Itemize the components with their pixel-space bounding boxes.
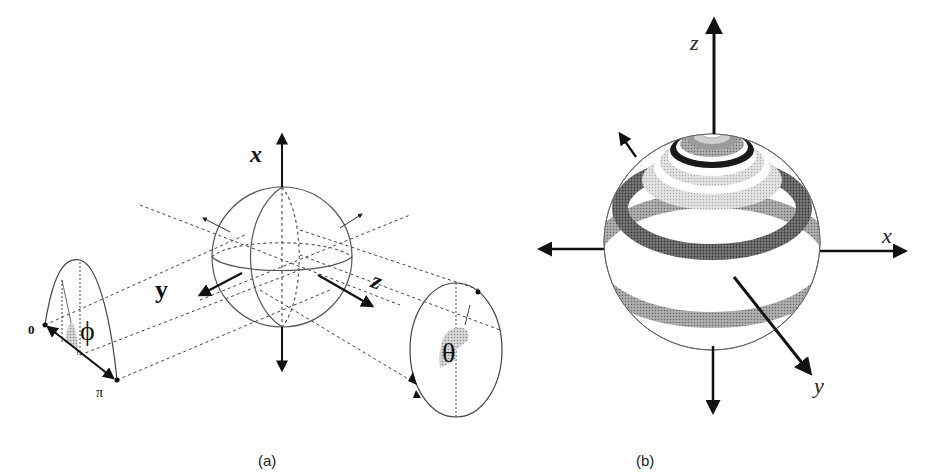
phi-pi-label: π [96,385,103,400]
neg-y-axis-arrow-b [620,134,636,157]
figure-canvas: x y z 0 π ϕ θ [0,0,925,476]
axes-a [200,135,372,370]
panel-b-diagram: z x y [540,20,905,412]
diag-arrow-left [203,218,230,232]
striped-sphere [592,130,832,350]
sphere-a [212,187,352,327]
z-axis-label-b: z [689,30,699,55]
diag-arrow-right [340,214,362,228]
phi-zero-label: 0 [28,322,35,337]
phi-label: ϕ [80,315,95,346]
x-axis-label-a: x [249,141,262,167]
theta-label: θ [442,337,455,368]
y-axis-label-b: y [812,373,824,398]
x-axis-label-b: x [881,223,892,248]
z-axis-arrow [318,275,372,306]
caption-a: (a) [258,452,276,469]
y-axis-label-a: y [155,275,168,304]
caption-b: (b) [636,452,654,469]
panel-a-diagram: x y z 0 π ϕ θ [28,135,502,417]
